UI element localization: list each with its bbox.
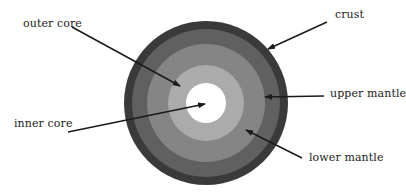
upper-mantle-label: upper mantle xyxy=(330,88,406,100)
lower-mantle-label: lower mantle xyxy=(309,152,384,164)
upper-mantle-arrow xyxy=(265,96,324,97)
earth-cross-section xyxy=(124,21,288,185)
crust-arrow xyxy=(268,22,327,49)
crust-label: crust xyxy=(335,9,364,21)
outer-core-label: outer core xyxy=(23,18,82,30)
inner-core-layer xyxy=(186,83,226,123)
inner-core-label: inner core xyxy=(14,118,73,130)
